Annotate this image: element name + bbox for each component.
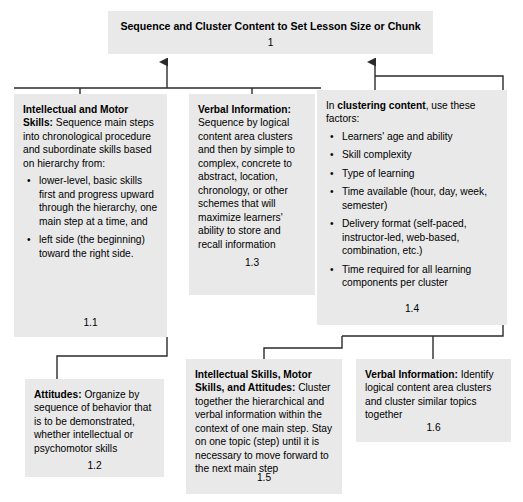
node-1-3-desc: Sequence by logical content area cluster… (198, 117, 295, 249)
node-1-1[interactable]: Intellectual and Motor Skills: Sequence … (14, 94, 167, 337)
node-1-3-lead: Verbal Information: (198, 104, 291, 115)
node-1-4[interactable]: In clustering content, use these factors… (317, 90, 507, 325)
node-1-1-ref: 1.1 (14, 316, 167, 329)
node-1-6-text: Verbal Information: Identify logical con… (365, 368, 502, 422)
node-1-4-bullet: Learners' age and ability (342, 130, 498, 143)
route-node-1-5 (264, 336, 342, 359)
node-1-4-lead-pre: In (326, 100, 337, 111)
flowchart-canvas: Sequence and Cluster Content to Set Less… (0, 0, 523, 502)
node-1-1-body: Intellectual and Motor Skills: Sequence … (14, 94, 167, 267)
node-1-1-bullet: lower-level, basic skills first and prog… (39, 174, 158, 228)
node-1-6[interactable]: Verbal Information: Identify logical con… (356, 359, 511, 442)
node-1-4-lead: clustering content (337, 100, 425, 111)
node-1-2-body: Attitudes: Organize by sequence of behav… (25, 379, 164, 457)
node-1-2-text: Attitudes: Organize by sequence of behav… (34, 388, 155, 455)
node-1-5[interactable]: Intellectual Skills, Motor Skills, and A… (186, 359, 342, 494)
node-1-4-ref: 1.4 (317, 302, 507, 315)
node-1-4-text: In clustering content, use these factors… (326, 99, 498, 126)
node-title-ref: 1 (108, 36, 433, 49)
node-1-4-bullet: Type of learning (342, 167, 498, 180)
node-1-4-bullet: Time required for all learning component… (342, 263, 498, 290)
node-1-6-ref: 1.6 (356, 421, 511, 434)
node-1-1-bullets: lower-level, basic skills first and prog… (23, 174, 158, 260)
node-1-4-body: In clustering content, use these factors… (317, 90, 507, 296)
node-1-2-ref: 1.2 (25, 459, 164, 472)
node-1-3-text: Verbal Information: Sequence by logical … (198, 103, 306, 251)
node-1-2-lead: Attitudes: (34, 389, 82, 400)
node-1-3-ref: 1.3 (189, 256, 315, 269)
node-1-6-body: Verbal Information: Identify logical con… (356, 359, 511, 424)
node-1-4-bullet: Time available (hour, day, week, semeste… (342, 185, 498, 212)
node-1-1-bullet: left side (the beginning) toward the rig… (39, 233, 158, 260)
node-1-4-bullet: Delivery format (self-paced, instructor-… (342, 217, 498, 257)
node-1-5-ref: 1.5 (186, 471, 342, 484)
route-node-1-2 (57, 337, 167, 379)
node-1-5-body: Intellectual Skills, Motor Skills, and A… (186, 359, 342, 478)
node-title-box[interactable]: Sequence and Cluster Content to Set Less… (108, 11, 433, 54)
node-1-6-lead: Verbal Information: (365, 369, 458, 380)
node-1-5-text: Intellectual Skills, Motor Skills, and A… (195, 368, 333, 476)
node-1-4-bullet: Skill complexity (342, 148, 498, 161)
node-1-5-desc: Cluster together the hierarchical and ve… (195, 382, 332, 474)
node-1-1-text: Intellectual and Motor Skills: Sequence … (23, 103, 158, 170)
node-1-3-body: Verbal Information: Sequence by logical … (189, 94, 315, 253)
node-1-4-bullets: Learners' age and ability Skill complexi… (326, 130, 498, 290)
node-1-3[interactable]: Verbal Information: Sequence by logical … (189, 94, 315, 295)
node-1-2[interactable]: Attitudes: Organize by sequence of behav… (25, 379, 164, 477)
